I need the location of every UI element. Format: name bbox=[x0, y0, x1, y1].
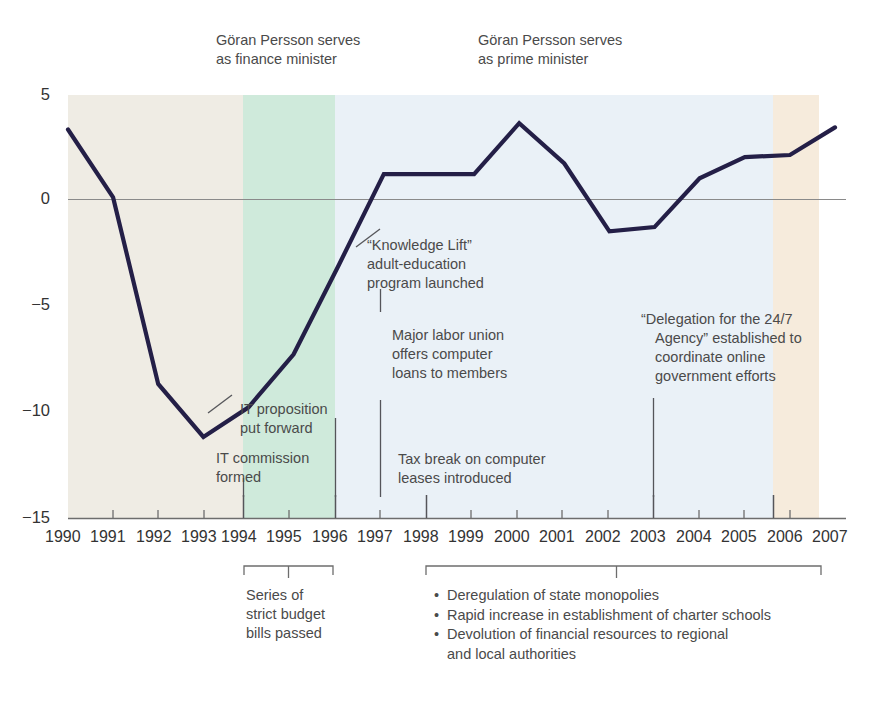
annotation-prime-minister-line2: as prime minister bbox=[478, 50, 588, 69]
callout-delegation-line4: government efforts bbox=[655, 367, 776, 386]
callout-knowledge-lift-line3: program launched bbox=[367, 274, 484, 293]
callout-it-proposition-line2: put forward bbox=[240, 419, 313, 438]
bracket-strict-budget-line1: Series of bbox=[246, 586, 303, 605]
y-tick-label-0: 0 bbox=[8, 189, 50, 208]
y-tick-label--15: −15 bbox=[8, 508, 50, 527]
x-tick-label-2002: 2002 bbox=[585, 528, 621, 546]
bracket-strict-budget-line2: strict budget bbox=[246, 605, 325, 624]
bracket-strict-budget-bills bbox=[244, 566, 333, 578]
x-tick-label-1993: 1993 bbox=[181, 528, 217, 546]
bullet-dot-icon: • bbox=[434, 625, 439, 645]
x-tick-label-1992: 1992 bbox=[136, 528, 172, 546]
y-tick-label--10: −10 bbox=[8, 401, 50, 420]
callout-labor-union-line1: Major labor union bbox=[392, 326, 504, 345]
bullet-item-2-text: Devolution of financial resources to reg… bbox=[447, 626, 728, 642]
x-tick-label-1990: 1990 bbox=[45, 528, 81, 546]
x-tick-label-2000: 2000 bbox=[494, 528, 530, 546]
annotation-finance-minister-line2: as finance minister bbox=[216, 50, 337, 69]
bracket-reform-bullets: • Deregulation of state monopolies • Rap… bbox=[432, 586, 852, 664]
x-tick-label-2001: 2001 bbox=[539, 528, 575, 546]
x-tick-label-1995: 1995 bbox=[266, 528, 302, 546]
bracket-reform-bullets bbox=[426, 566, 821, 578]
x-tick-label-2003: 2003 bbox=[630, 528, 666, 546]
x-tick-label-1996: 1996 bbox=[312, 528, 348, 546]
callout-knowledge-lift-line2: adult-education bbox=[367, 255, 466, 274]
callout-it-commission-line2: formed bbox=[216, 468, 261, 487]
x-tick-label-1997: 1997 bbox=[357, 528, 393, 546]
bullet-item-0-text: Deregulation of state monopolies bbox=[447, 587, 659, 603]
callout-labor-union-line3: loans to members bbox=[392, 364, 507, 383]
x-tick-label-1998: 1998 bbox=[403, 528, 439, 546]
y-tick-label--5: −5 bbox=[8, 295, 50, 314]
callout-tax-break-line2: leases introduced bbox=[398, 469, 512, 488]
x-tick-label-2007: 2007 bbox=[812, 528, 848, 546]
bullet-item-1-text: Rapid increase in establishment of chart… bbox=[447, 607, 771, 623]
bullet-dot-icon: • bbox=[434, 606, 439, 626]
x-tick-label-1991: 1991 bbox=[90, 528, 126, 546]
y-tick-label-5: 5 bbox=[8, 85, 50, 104]
bullet-item-2: • Devolution of financial resources to r… bbox=[432, 625, 852, 645]
callout-delegation-line3: coordinate online bbox=[655, 348, 765, 367]
bullet-item-0: • Deregulation of state monopolies bbox=[432, 586, 852, 606]
annotation-finance-minister-line1: Göran Persson serves bbox=[216, 31, 360, 50]
x-tick-label-2005: 2005 bbox=[721, 528, 757, 546]
bullet-dot-icon: • bbox=[434, 586, 439, 606]
bullet-item-1: • Rapid increase in establishment of cha… bbox=[432, 606, 852, 626]
callout-knowledge-lift-line1: “Knowledge Lift” bbox=[367, 236, 472, 255]
band-post-2006 bbox=[773, 95, 819, 518]
callout-labor-union-line2: offers computer bbox=[392, 345, 492, 364]
callout-it-proposition-line1: IT proposition bbox=[240, 400, 328, 419]
bracket-strict-budget-line3: bills passed bbox=[246, 624, 322, 643]
x-tick-label-1999: 1999 bbox=[448, 528, 484, 546]
callout-delegation-line2: Agency” established to bbox=[655, 329, 802, 348]
x-tick-label-2006: 2006 bbox=[767, 528, 803, 546]
callout-delegation-line1: “Delegation for the 24/7 bbox=[641, 310, 793, 329]
x-tick-label-1994: 1994 bbox=[221, 528, 257, 546]
callout-tax-break-line1: Tax break on computer bbox=[398, 450, 546, 469]
x-tick-label-2004: 2004 bbox=[676, 528, 712, 546]
annotation-prime-minister-line1: Göran Persson serves bbox=[478, 31, 622, 50]
bullet-item-2-continuation: and local authorities bbox=[432, 645, 852, 665]
callout-it-commission-line1: IT commission bbox=[216, 449, 309, 468]
